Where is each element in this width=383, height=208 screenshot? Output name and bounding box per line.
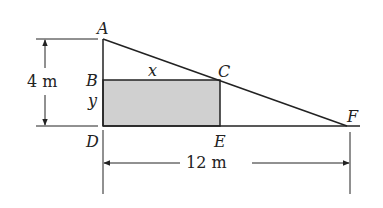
label-E: E bbox=[213, 132, 226, 151]
variable-x: x bbox=[148, 61, 157, 80]
label-B: B bbox=[85, 71, 98, 90]
height-dimension-label: 4 m bbox=[27, 72, 57, 91]
shaded-rectangle bbox=[103, 80, 220, 126]
variable-y: y bbox=[87, 91, 98, 110]
base-dimension-label: 12 m bbox=[186, 153, 227, 172]
label-A: A bbox=[95, 19, 109, 38]
triangle-rectangle-diagram: A B C D E F x y 4 m 12 m bbox=[0, 0, 383, 208]
label-C: C bbox=[218, 62, 230, 81]
label-F: F bbox=[346, 107, 359, 126]
label-D: D bbox=[85, 132, 99, 151]
